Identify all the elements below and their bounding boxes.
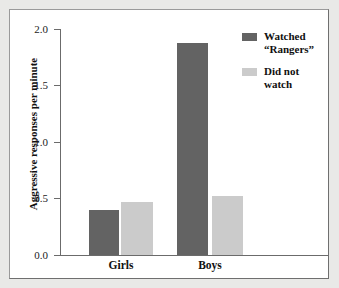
bar-girls-watched <box>89 210 119 255</box>
legend-label-watched-rangers: Watched “Rangers” <box>264 30 314 56</box>
y-tick-mark-3 <box>54 198 60 199</box>
plot-area: Aggressive responses per minute 2.0 1.5 … <box>10 10 330 280</box>
legend-item-did-not-watch: Did not watch <box>242 65 328 91</box>
y-axis-line <box>60 29 61 256</box>
legend-item-watched-rangers: Watched “Rangers” <box>242 30 328 56</box>
light-swatch-icon <box>242 68 257 76</box>
chart-legend: Watched “Rangers” Did not watch <box>242 30 328 100</box>
legend-label-line2: watch <box>264 78 299 91</box>
y-tick-label-2.0: 2.0 <box>8 24 48 35</box>
bar-girls-did-not-watch <box>121 202 153 255</box>
y-tick-mark-1 <box>54 85 60 86</box>
legend-label-line1: Watched <box>264 30 314 43</box>
y-tick-label-0.5: 0.5 <box>8 193 48 204</box>
y-tick-mark-4 <box>54 255 60 256</box>
y-tick-label-1.0: 1.0 <box>8 137 48 148</box>
x-axis-line <box>60 255 328 256</box>
y-tick-mark-0 <box>54 29 60 30</box>
legend-label-did-not-watch: Did not watch <box>264 65 299 91</box>
y-tick-label-0.0: 0.0 <box>8 250 48 261</box>
y-tick-label-1.5: 1.5 <box>8 80 48 91</box>
chart-figure: Aggressive responses per minute 2.0 1.5 … <box>9 9 329 279</box>
legend-label-line1: Did not <box>264 65 299 78</box>
bar-boys-watched <box>177 43 208 255</box>
legend-label-line2: “Rangers” <box>264 43 314 56</box>
y-tick-mark-2 <box>54 142 60 143</box>
dark-swatch-icon <box>242 33 257 41</box>
x-category-label-girls: Girls <box>81 260 161 272</box>
x-category-label-boys: Boys <box>170 260 250 272</box>
bar-boys-did-not-watch <box>212 196 243 255</box>
